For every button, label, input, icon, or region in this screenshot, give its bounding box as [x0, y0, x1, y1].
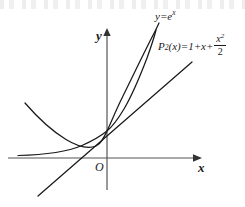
curve-tangent-line [38, 62, 192, 196]
fraction-denominator: 2 [218, 46, 223, 57]
curve-quadratic-taylor [25, 23, 159, 147]
taylor-approximation-figure: y=ex P2(x)=1+x+ x2 2 y x O [0, 0, 245, 207]
x-axis-label: x [198, 161, 205, 174]
polynomial-argument: (x) [168, 41, 180, 52]
origin-label: O [95, 161, 104, 173]
polynomial-name: P [158, 41, 165, 52]
polynomial-subscript: 2 [165, 44, 169, 52]
y-axis-arrowhead [103, 28, 110, 36]
exponential-base: y=e [155, 10, 172, 22]
curve-label-polynomial: P2(x)=1+x+ x2 2 [158, 34, 226, 58]
y-axis-label: y [96, 29, 102, 42]
curve-label-exponential: y=ex [155, 9, 176, 22]
plot-canvas [0, 0, 245, 207]
polynomial-fraction: x2 2 [214, 33, 226, 57]
polynomial-equals: =1+x+ [181, 41, 214, 52]
curve-exponential [18, 30, 156, 156]
fraction-numerator: x2 [214, 33, 226, 45]
exponential-exponent: x [172, 8, 175, 17]
fraction-numerator-exponent: 2 [221, 32, 225, 40]
